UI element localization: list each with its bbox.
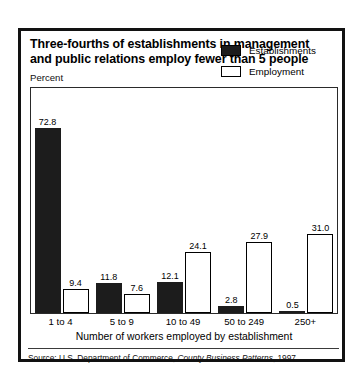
bar-employment <box>185 252 211 313</box>
legend-swatch-establishments <box>221 45 241 56</box>
bar-employment <box>246 242 272 313</box>
bar-value-label: 2.8 <box>214 295 248 305</box>
bar-value-label: 72.8 <box>31 117 65 127</box>
bar-value-label: 11.8 <box>92 272 126 282</box>
bar-value-label: 0.5 <box>275 300 309 310</box>
bar-value-label: 24.1 <box>181 241 215 251</box>
chart-legend: Establishments Employment <box>221 42 316 84</box>
bar-value-label: 9.4 <box>59 278 93 288</box>
x-axis-tick-label: 250+ <box>275 316 336 327</box>
bar-establishments <box>35 128 61 313</box>
source-note: Source: U.S. Department of Commerce, Cou… <box>28 353 296 363</box>
plot-area: 72.89.411.87.612.124.12.827.90.531.0 <box>30 87 338 314</box>
bar-group: 12.124.1 <box>153 88 214 313</box>
bar-establishments <box>96 283 122 313</box>
x-axis-tick-label: 10 to 49 <box>152 316 213 327</box>
bar-group: 72.89.4 <box>31 88 92 313</box>
bar-establishments <box>279 311 305 313</box>
bar-group: 2.827.9 <box>215 88 276 313</box>
bar-employment <box>63 289 89 313</box>
source-prefix: Source: U.S. Department of Commerce, <box>28 353 177 363</box>
legend-swatch-employment <box>221 66 241 77</box>
bar-group: 0.531.0 <box>276 88 337 313</box>
bar-groups: 72.89.411.87.612.124.12.827.90.531.0 <box>31 88 337 313</box>
y-axis-label: Percent <box>30 72 63 83</box>
bar-value-label: 27.9 <box>242 231 276 241</box>
bar-establishments <box>218 306 244 313</box>
bar-employment <box>124 294 150 313</box>
bar-group: 11.87.6 <box>92 88 153 313</box>
legend-item-establishments: Establishments <box>221 42 316 59</box>
source-publication: County Business Patterns <box>177 353 272 363</box>
legend-label-employment: Employment <box>249 66 304 77</box>
footer-divider <box>28 348 339 349</box>
x-axis-tick-label: 50 to 249 <box>214 316 275 327</box>
legend-item-employment: Employment <box>221 63 316 80</box>
legend-label-establishments: Establishments <box>249 45 316 56</box>
bar-value-label: 31.0 <box>303 223 337 233</box>
source-suffix: , 1997 <box>273 353 296 363</box>
bar-value-label: 12.1 <box>153 271 187 281</box>
bar-employment <box>307 234 333 313</box>
bar-value-label: 7.6 <box>120 283 154 293</box>
x-axis-tick-labels: 1 to 45 to 910 to 4950 to 249250+ <box>30 316 338 330</box>
x-axis-tick-label: 1 to 4 <box>30 316 91 327</box>
chart-figure: Three-fourths of establishments in manag… <box>18 28 345 362</box>
x-axis-tick-label: 5 to 9 <box>91 316 152 327</box>
bar-establishments <box>157 282 183 313</box>
x-axis-title: Number of workers employed by establishm… <box>30 331 338 342</box>
